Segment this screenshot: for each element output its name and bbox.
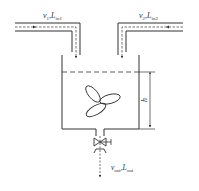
inlet-2-label: v2,Lin2	[139, 11, 158, 21]
inlet-1-label: v1,Lin1	[43, 11, 62, 21]
outlet-pipe	[94, 129, 111, 177]
inlet-pipe-1-inner-wall	[15, 31, 72, 52]
inlet-flow-2-arrow	[122, 27, 183, 58]
inlet-pipe-1-outer-wall	[15, 23, 80, 55]
inlet-flow-2-direction-icon	[166, 26, 169, 29]
tank-walls	[62, 55, 96, 129]
inlet-pipe-2-outer-wall	[118, 23, 183, 55]
height-label: h	[140, 98, 149, 102]
tank-walls-right	[104, 55, 139, 129]
tank	[62, 55, 139, 129]
inlet-pipe-2	[118, 23, 183, 58]
inlet-flow-1-arrow	[15, 27, 76, 58]
inlet-pipe-2-inner-wall	[126, 31, 183, 52]
mixing-tank-diagram: v1,Lin1 v2,Lin2 h vout,Lout	[0, 0, 199, 191]
inlet-pipe-1	[15, 23, 80, 58]
outlet-label: vout,Lout	[111, 163, 134, 173]
propeller-icon	[83, 83, 121, 119]
inlet-flow-1-direction-icon	[33, 26, 36, 29]
